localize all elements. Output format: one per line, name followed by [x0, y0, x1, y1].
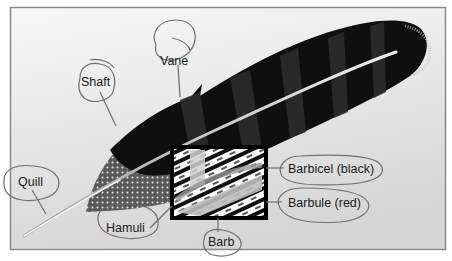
label-barbicel: Barbicel (black)	[288, 163, 374, 176]
feather-diagram: Vane Shaft Quill Hamuli Barb Barbicel (b…	[0, 0, 452, 261]
label-hamuli: Hamuli	[106, 222, 145, 235]
diagram-canvas	[0, 0, 452, 261]
label-quill: Quill	[18, 176, 43, 189]
barb-magnification-inset	[172, 147, 266, 218]
label-barbule: Barbule (red)	[288, 197, 361, 210]
label-vane: Vane	[160, 55, 188, 68]
label-barb: Barb	[208, 236, 234, 249]
label-shaft: Shaft	[81, 76, 110, 89]
